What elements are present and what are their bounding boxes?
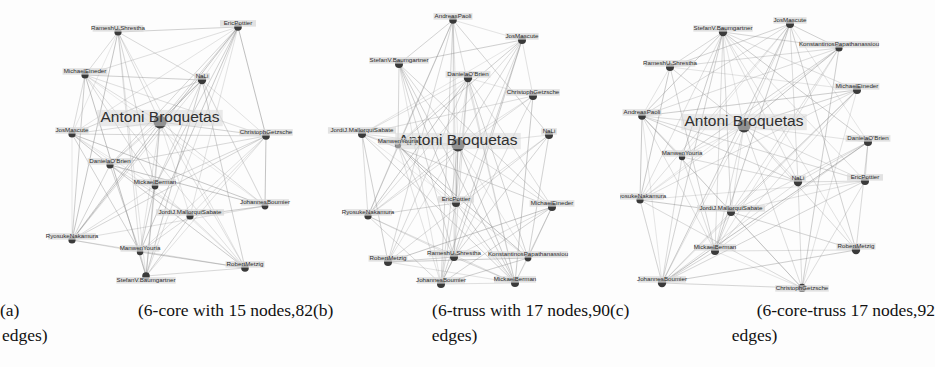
graph-node-label: JordiJ.MallorquiSabate (159, 208, 222, 215)
graph-node-label: JordiJ.MallorquiSabate (700, 204, 763, 211)
graph-edge (715, 48, 839, 251)
graph-panel-a: Antoni BroquetasRameshU.ShresthaEricPott… (0, 0, 310, 292)
graph-node-label: StefanV.Baumgartner (694, 24, 753, 31)
graph-node-label: KonstantinosPapathanassiou (488, 250, 569, 257)
graph-edge (362, 134, 368, 216)
graph-edge (731, 90, 857, 212)
graph-node-label: MickaelBerman (134, 178, 177, 185)
graph-node-label: MichaelEineder (836, 82, 879, 89)
graph-edge (640, 67, 670, 200)
graph-node-label: RobertMetzig (227, 260, 264, 267)
graph-edge (670, 67, 857, 90)
graph-edge (856, 142, 868, 250)
graph-node-label: StefanV.Baumgartner (117, 276, 176, 283)
graph-edge (146, 268, 245, 276)
graph-edge (682, 24, 790, 157)
graph-edge (85, 75, 245, 268)
caption-b-tag: (b) (313, 298, 333, 323)
graph-edge (85, 75, 155, 186)
caption-c-tag: (c) (610, 298, 629, 323)
graph-node-label: KonstantinosPapathanassiou (799, 40, 880, 47)
graph-panel-c: Antoni BroquetasStefanV.BaumgartnerJosMa… (620, 0, 935, 292)
caption-a-line2: edges) (0, 323, 313, 348)
graph-node-label: EricPottier (851, 173, 880, 180)
graph-node-label: Antoni Broquetas (685, 112, 804, 129)
graph-node-label: NaLi (792, 174, 805, 181)
graph-edge (72, 134, 266, 136)
graph-edge (723, 32, 856, 250)
graph-edge (662, 182, 798, 283)
graph-edge (715, 250, 856, 251)
graph-edges-a (72, 27, 266, 276)
figure-three-graph-panels: Antoni BroquetasRameshU.ShresthaEricPott… (0, 0, 935, 367)
graph-node-label: JosMascute (55, 126, 89, 133)
caption-c-line2: edges) (610, 323, 935, 348)
caption-b-line1: (b) (6-truss with 17 nodes,90 (313, 298, 610, 323)
graph-edge (715, 32, 723, 251)
graph-node-label: RyosukeNakamura (46, 232, 99, 239)
graph-node-label: DanielaO'Brien (447, 70, 489, 77)
graph-node-label: RobertMetzig (370, 254, 407, 261)
graph-edge (662, 142, 868, 283)
graph-edge (642, 116, 715, 251)
graph-node-label: DanielaO'Brien (847, 134, 889, 141)
graph-edge (670, 67, 715, 251)
graph-edge (140, 136, 266, 252)
graph-panels-row: Antoni BroquetasRameshU.ShresthaEricPott… (0, 0, 935, 292)
caption-a-line1: (a) (6-core with 15 nodes,82 (0, 298, 313, 323)
graph-node-label: DanielaO'Brien (89, 157, 131, 164)
graph-edge (640, 90, 857, 200)
graph-edge (155, 80, 202, 186)
graph-edge (642, 32, 723, 116)
caption-c-line1: (c) (6-core-truss 17 nodes,92 (610, 298, 935, 323)
graph-edge (146, 27, 238, 276)
graph-panel-b: Antoni BroquetasAndreasPaoliJosMascuteSt… (310, 0, 620, 292)
graph-svg-c: Antoni BroquetasStefanV.BaumgartnerJosMa… (620, 0, 935, 292)
graph-node-label: MickaelBerman (494, 275, 537, 282)
caption-a: (a) (6-core with 15 nodes,82 edges) (0, 292, 313, 367)
graph-node-label: ManwenYouria (120, 244, 161, 251)
graph-node-label: RyosukeNakamura (342, 208, 395, 215)
graph-edge (72, 134, 265, 206)
graph-node-label: RyosukeNakamura (620, 192, 667, 199)
graph-edge (744, 24, 790, 126)
graph-node-label: RameshU.Shrestha (427, 249, 482, 256)
graph-edge (72, 165, 110, 240)
graph-node-label: Antoni Broquetas (101, 108, 220, 125)
graph-edge (640, 200, 662, 283)
graph-node-label: JohannesBoumier (240, 198, 290, 205)
graph-edge (368, 20, 453, 216)
graph-node-label: RameshU.Shrestha (91, 24, 146, 31)
graph-edge (640, 116, 642, 200)
graph-node-label: JosMascute (773, 16, 807, 23)
graph-edge (118, 32, 202, 80)
graph-node-label: ManwenYouria (662, 149, 703, 156)
graph-edge (118, 32, 245, 268)
graph-edge (798, 182, 802, 288)
graph-node-label: EricPottier (442, 195, 471, 202)
caption-b: (b) (6-truss with 17 nodes,90 edges) (313, 292, 610, 367)
graph-edge (160, 122, 245, 268)
graph-node-label: NaLi (543, 127, 556, 134)
graph-edge (528, 135, 549, 258)
graph-node-label: StefanV.Baumgartner (370, 56, 429, 63)
graph-node-label: MickaelBerman (694, 243, 737, 250)
graph-node-label: JosMascute (505, 32, 539, 39)
caption-a-text: (6-core with 15 nodes,82 (138, 298, 313, 323)
graph-edge (399, 64, 454, 257)
graph-edge (715, 251, 802, 288)
graph-edge (238, 27, 266, 136)
caption-c: (c) (6-core-truss 17 nodes,92 edges) (610, 292, 935, 367)
caption-c-text: (6-core-truss 17 nodes,92 (757, 298, 935, 323)
graph-node-label: JohannesBoumier (637, 275, 687, 282)
graph-edge (85, 75, 266, 136)
graph-edge (441, 20, 453, 284)
graph-edge (715, 142, 868, 251)
graph-edge (85, 27, 238, 75)
graph-edge (640, 181, 865, 200)
graph-edge (682, 32, 723, 157)
graph-node-label: ChristophGetzsche (507, 88, 560, 95)
graph-edge (155, 27, 238, 186)
graph-edge (72, 136, 266, 240)
graph-edge (682, 48, 839, 157)
